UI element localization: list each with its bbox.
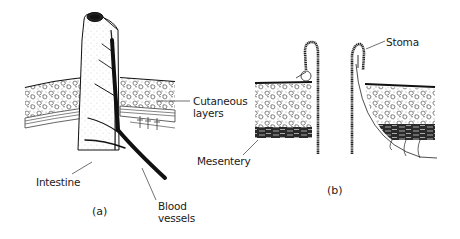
cutaneous-label-line1: Cutaneous [193,95,247,107]
stoma-label: Stoma [386,36,419,48]
mesentery-label: Mesentery [197,155,250,167]
stoma-leader [366,41,385,49]
cutaneous-label-line2: layers [193,107,224,119]
blood-vessels-label-line2: vessels [158,212,195,224]
panel-a-label: (a) [92,205,107,218]
panel-a-drawing [25,13,190,201]
cutaneous-label: Cutaneous layers [193,95,247,119]
blood-vessels-label-line1: Blood [158,200,187,212]
blood-vessels-label: Blood vessels [158,200,195,224]
intestine-label: Intestine [36,176,80,188]
panel-b-drawing [243,41,437,158]
blood-vessels-leader [142,168,156,200]
panel-b-label: (b) [327,184,343,197]
mesentery-leader [243,140,258,155]
intestine-leader [72,162,92,174]
